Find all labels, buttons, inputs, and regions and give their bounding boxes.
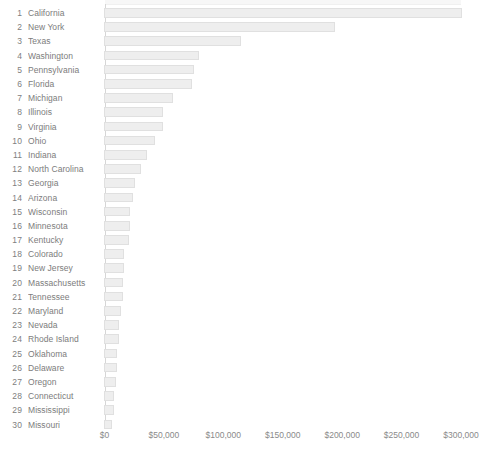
category-label: New York <box>28 22 104 32</box>
table-row[interactable]: 11Indiana <box>0 148 471 162</box>
rank-number: 30 <box>0 420 22 430</box>
category-label: Wisconsin <box>28 207 104 217</box>
table-row[interactable]: 12North Carolina <box>0 162 471 176</box>
bar-track <box>104 34 471 48</box>
bar-track <box>104 162 471 176</box>
table-row[interactable]: 25Oklahoma <box>0 347 471 361</box>
bar[interactable] <box>104 377 116 387</box>
table-row[interactable]: 17Kentucky <box>0 233 471 247</box>
bar[interactable] <box>104 122 163 132</box>
bar[interactable] <box>104 193 133 203</box>
table-row[interactable]: 14Arizona <box>0 190 471 204</box>
bar[interactable] <box>104 278 123 288</box>
category-label: Texas <box>28 36 104 46</box>
table-row[interactable]: 9Virginia <box>0 120 471 134</box>
bar[interactable] <box>104 8 462 18</box>
bar[interactable] <box>104 221 130 231</box>
table-row[interactable]: 28Connecticut <box>0 389 471 403</box>
bar[interactable] <box>104 107 163 117</box>
bar[interactable] <box>104 363 117 373</box>
table-row[interactable]: 7Michigan <box>0 91 471 105</box>
table-row[interactable]: 21Tennessee <box>0 290 471 304</box>
bar[interactable] <box>104 420 112 430</box>
table-row[interactable]: 27Oregon <box>0 375 471 389</box>
bar[interactable] <box>104 320 119 330</box>
table-row[interactable]: 18Colorado <box>0 247 471 261</box>
bar-track <box>104 318 471 332</box>
category-label: Ohio <box>28 136 104 146</box>
table-row[interactable]: 22Maryland <box>0 304 471 318</box>
rank-number: 16 <box>0 221 22 231</box>
bar-track <box>104 6 471 20</box>
category-label: Florida <box>28 79 104 89</box>
category-label: Nevada <box>28 320 104 330</box>
bar[interactable] <box>104 207 130 217</box>
table-row[interactable]: 4Washington <box>0 49 471 63</box>
bar-track <box>104 105 471 119</box>
table-row[interactable]: 5Pennsylvania <box>0 63 471 77</box>
bar-track <box>104 261 471 275</box>
rank-number: 8 <box>0 107 22 117</box>
bar[interactable] <box>104 150 147 160</box>
table-row[interactable]: 29Mississippi <box>0 403 471 417</box>
bar[interactable] <box>104 136 155 146</box>
table-row[interactable]: 19New Jersey <box>0 261 471 275</box>
rank-number: 22 <box>0 306 22 316</box>
bar[interactable] <box>104 164 141 174</box>
rank-number: 27 <box>0 377 22 387</box>
bar[interactable] <box>104 292 123 302</box>
bar[interactable] <box>104 235 129 245</box>
category-label: Virginia <box>28 122 104 132</box>
table-row[interactable]: 1California <box>0 6 471 20</box>
table-row[interactable]: 26Delaware <box>0 361 471 375</box>
bar-rows-list: 1California2New York3Texas4Washington5Pe… <box>0 6 471 432</box>
rank-number: 2 <box>0 22 22 32</box>
bar[interactable] <box>104 36 241 46</box>
bar[interactable] <box>104 93 173 103</box>
rank-number: 12 <box>0 164 22 174</box>
bar[interactable] <box>104 22 335 32</box>
category-label: Oklahoma <box>28 349 104 359</box>
table-row[interactable]: 8Illinois <box>0 105 471 119</box>
bar[interactable] <box>104 391 114 401</box>
bar[interactable] <box>104 334 119 344</box>
bar[interactable] <box>104 349 117 359</box>
bar-track <box>104 148 471 162</box>
bar-track <box>104 375 471 389</box>
table-row[interactable]: 2New York <box>0 20 471 34</box>
category-label: Arizona <box>28 193 104 203</box>
rank-number: 17 <box>0 235 22 245</box>
table-row[interactable]: 23Nevada <box>0 318 471 332</box>
bar[interactable] <box>104 51 199 61</box>
table-row[interactable]: 15Wisconsin <box>0 205 471 219</box>
table-row[interactable]: 10Ohio <box>0 134 471 148</box>
rank-number: 5 <box>0 65 22 75</box>
rank-number: 29 <box>0 405 22 415</box>
bar[interactable] <box>104 249 124 259</box>
bar[interactable] <box>104 263 124 273</box>
bar[interactable] <box>104 405 114 415</box>
bar-track <box>104 190 471 204</box>
category-label: Missouri <box>28 420 104 430</box>
category-label: North Carolina <box>28 164 104 174</box>
bar[interactable] <box>104 65 194 75</box>
category-label: California <box>28 8 104 18</box>
table-row[interactable]: 24Rhode Island <box>0 332 471 346</box>
rank-number: 23 <box>0 320 22 330</box>
bar-track <box>104 361 471 375</box>
bar[interactable] <box>104 306 121 316</box>
table-row[interactable]: 3Texas <box>0 34 471 48</box>
rank-number: 7 <box>0 93 22 103</box>
rank-number: 15 <box>0 207 22 217</box>
table-row[interactable]: 16Minnesota <box>0 219 471 233</box>
category-label: New Jersey <box>28 263 104 273</box>
bar[interactable] <box>104 178 135 188</box>
table-row[interactable]: 13Georgia <box>0 176 471 190</box>
category-label: Rhode Island <box>28 334 104 344</box>
table-row[interactable]: 6Florida <box>0 77 471 91</box>
bar-track <box>104 219 471 233</box>
category-label: Illinois <box>28 107 104 117</box>
table-row[interactable]: 20Massachusetts <box>0 276 471 290</box>
bar[interactable] <box>104 79 192 89</box>
rank-number: 21 <box>0 292 22 302</box>
